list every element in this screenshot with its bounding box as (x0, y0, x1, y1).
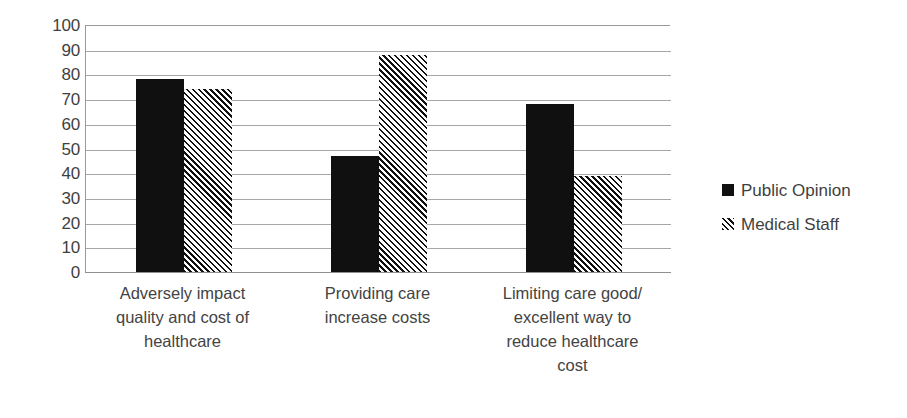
y-tick-label-30: 30 (0, 190, 80, 207)
category-label-2-line-1: Providing care (268, 281, 487, 305)
y-tick-label-40: 40 (0, 165, 80, 182)
bar-2-medical-staff (379, 55, 427, 272)
category-label-1-line-3: healthcare (73, 329, 292, 353)
category-label-3-line-2: excellent way to (463, 305, 682, 329)
y-axis: 100 90 80 70 60 50 40 30 20 10 0 (0, 0, 80, 418)
category-label-1-line-1: Adversely impact (73, 281, 292, 305)
bar-2-public-opinion (331, 156, 379, 272)
category-label-1: Adversely impactquality and cost ofhealt… (73, 281, 292, 353)
x-axis-category-labels: Adversely impactquality and cost ofhealt… (85, 281, 670, 401)
legend-item-medical-staff[interactable]: Medical Staff (722, 207, 902, 241)
y-tick-label-50: 50 (0, 141, 80, 158)
bar-1-medical-staff (184, 89, 232, 272)
solid-square-icon (722, 184, 734, 196)
category-label-1-line-2: quality and cost of (73, 305, 292, 329)
x-axis-baseline (85, 272, 671, 273)
y-tick-label-60: 60 (0, 116, 80, 133)
category-label-2-line-2: increase costs (268, 305, 487, 329)
y-tick-label-0: 0 (0, 264, 80, 281)
bar-3-public-opinion (526, 104, 574, 272)
legend-label-public-opinion: Public Opinion (741, 182, 851, 199)
category-label-3: Limiting care good/excellent way toreduc… (463, 281, 682, 377)
category-label-2: Providing careincrease costs (268, 281, 487, 329)
bar-1-public-opinion (136, 79, 184, 272)
y-tick-label-80: 80 (0, 66, 80, 83)
y-tick-label-100: 100 (0, 17, 80, 34)
gridline-90 (86, 51, 671, 52)
legend-label-medical-staff: Medical Staff (741, 216, 839, 233)
bar-3-medical-staff (574, 176, 622, 272)
category-label-3-line-3: reduce healthcare (463, 329, 682, 353)
y-tick-label-70: 70 (0, 91, 80, 108)
bar-chart: 100 90 80 70 60 50 40 30 20 10 0 Adverse… (0, 0, 907, 418)
legend-item-public-opinion[interactable]: Public Opinion (722, 173, 902, 207)
hatched-square-icon (722, 218, 734, 230)
plot-area (85, 25, 670, 272)
category-label-3-line-1: Limiting care good/ (463, 281, 682, 305)
y-tick-label-90: 90 (0, 42, 80, 59)
category-label-3-line-4: cost (463, 353, 682, 377)
y-tick-label-10: 10 (0, 239, 80, 256)
y-tick-label-20: 20 (0, 215, 80, 232)
chart-legend: Public Opinion Medical Staff (722, 173, 902, 241)
